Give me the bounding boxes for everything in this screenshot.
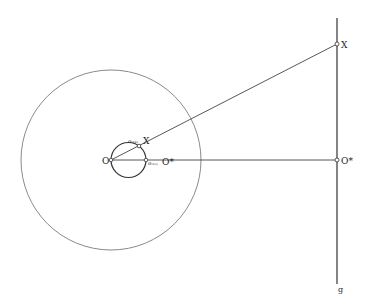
label-X: X: [341, 40, 348, 50]
diagram-canvas: O σ₀₍ₓ₎ X σ₀₍ₒ₎ O* X O* g: [0, 0, 366, 308]
label-sigma-Ostar-prefix: σ₀₍ₒ₎: [148, 160, 158, 166]
label-Ostar: O*: [341, 156, 353, 166]
label-sigma-X-prefix: σ₀₍ₓ₎: [128, 138, 138, 144]
label-O: O: [102, 156, 109, 166]
point-X-small: [137, 144, 141, 148]
label-sigma-Ostar: O*: [162, 157, 174, 167]
label-g: g: [338, 285, 343, 294]
point-Ostar: [335, 158, 339, 162]
label-sigma-X: X: [143, 136, 150, 146]
point-O: [109, 158, 113, 162]
point-X: [335, 42, 339, 46]
